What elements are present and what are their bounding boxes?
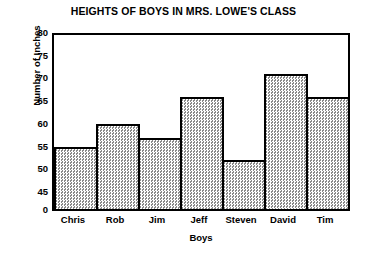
y-tick-label-zero: 0: [4, 205, 48, 215]
y-tick-label: 80: [4, 28, 48, 38]
y-tick-label: 50: [4, 164, 48, 174]
bars-layer: [54, 35, 348, 209]
y-tick-label: 60: [4, 119, 48, 129]
plot-area: [52, 33, 350, 211]
bar-chart-figure: HEIGHTS OF BOYS IN MRS. LOWE'S CLASS Num…: [0, 0, 367, 259]
y-tick-label: 65: [4, 96, 48, 106]
bar: [306, 97, 350, 211]
x-axis-label: Boys: [52, 232, 350, 243]
x-tick-label: Tim: [298, 214, 352, 225]
bar: [222, 160, 266, 211]
bar: [96, 124, 140, 211]
chart-title: HEIGHTS OF BOYS IN MRS. LOWE'S CLASS: [0, 5, 367, 17]
bar: [180, 97, 224, 211]
bar: [138, 138, 182, 212]
y-tick-label: 55: [4, 142, 48, 152]
y-axis-tick-labels: 45505560657075800: [0, 0, 48, 259]
x-axis-tick-labels: ChrisRobJimJeffStevenDavidTim: [52, 214, 350, 230]
y-tick-label: 75: [4, 51, 48, 61]
bar: [54, 147, 98, 211]
y-tick-label: 70: [4, 73, 48, 83]
y-tick-label: 45: [4, 187, 48, 197]
bar: [264, 74, 308, 211]
